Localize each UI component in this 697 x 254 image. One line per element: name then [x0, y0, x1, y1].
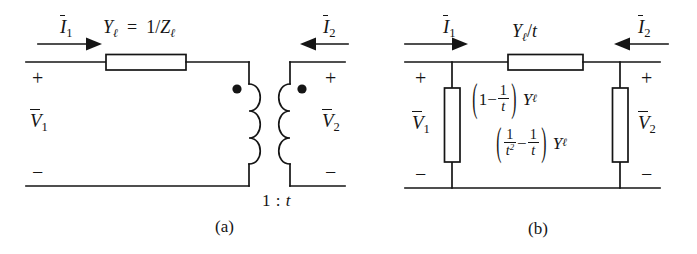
panel-a-current1-label: I1: [60, 16, 73, 39]
panel-b-series-element-label: Yℓ/t: [512, 22, 537, 43]
panel-a-turns-ratio-label: 1 : t: [262, 192, 291, 209]
panel-a-secondary-dot-marker: [297, 84, 306, 93]
panel-b-left-plus-sign: +: [415, 68, 426, 88]
panel-b-left-minus-sign: −: [415, 164, 426, 184]
panel-b-voltage1-label: V1: [412, 112, 430, 135]
panel-b-series-element-box: [508, 55, 583, 71]
panel-a-voltage2-label: V2: [322, 110, 340, 133]
panel-a-secondary-coil: [279, 84, 290, 164]
panel-b-right-shunt-element-box: [613, 88, 629, 162]
panel-a-primary-dot-marker: [232, 84, 241, 93]
panel-a-left-plus-sign: +: [32, 68, 43, 88]
panel-b-right-minus-sign: −: [641, 164, 652, 184]
panel-b-voltage2-label: V2: [638, 112, 656, 135]
panel-b-current2-label: I2: [638, 16, 651, 39]
panel-b-current1-label: I1: [443, 16, 456, 39]
panel-b-right-plus-sign: +: [641, 68, 652, 88]
panel-a-series-element-box: [106, 55, 186, 71]
panel-b-left-shunt-label: ( 1 − 1t ) Yℓ: [470, 84, 537, 114]
panel-a-voltage1-label: V1: [30, 110, 48, 133]
panel-a-right-plus-sign: +: [325, 68, 336, 88]
panel-b-current2-arrowhead: [614, 38, 630, 51]
panel-a-series-element-label: Yℓ = 1/Zℓ: [103, 18, 175, 39]
panel-a-caption: (a): [215, 218, 234, 235]
panel-a-current2-arrowhead: [300, 38, 316, 51]
panel-b-caption: (b): [528, 220, 548, 237]
panel-a-current1-arrowhead: [86, 38, 102, 51]
panel-b-left-shunt-element-box: [445, 88, 461, 162]
figure-container: I1 Yℓ = 1/Zℓ I2 + V1 − + V2 − 1 : t (a) …: [0, 0, 697, 254]
panel-b-right-shunt-label: ( 1t2 − 1t ) Yℓ: [494, 128, 567, 158]
panel-a-right-minus-sign: −: [325, 162, 336, 182]
panel-a-current2-label: I2: [323, 16, 336, 39]
panel-a-left-minus-sign: −: [32, 162, 43, 182]
panel-a-primary-coil: [249, 84, 260, 164]
